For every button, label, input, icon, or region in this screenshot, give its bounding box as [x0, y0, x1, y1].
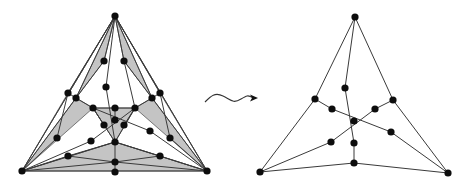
left-graph-edges: [22, 16, 207, 172]
graph-edge: [260, 142, 331, 172]
graph-vertex: [18, 167, 25, 174]
graph-vertex: [166, 134, 173, 141]
graph-vertex: [102, 83, 109, 90]
graph-edge: [355, 17, 393, 100]
graph-vertex: [111, 138, 118, 145]
graph-vertex: [72, 94, 79, 101]
graph-vertex: [156, 152, 163, 159]
graph-vertex: [53, 134, 60, 141]
graph-edge: [332, 109, 391, 132]
graph-vertex: [256, 168, 263, 175]
graph-vertex: [89, 104, 96, 111]
graph-vertex: [327, 138, 334, 145]
graph-vertex: [87, 137, 94, 144]
wavy-arrow-icon: [205, 94, 258, 102]
diagram-svg: [0, 0, 472, 186]
graph-vertex: [203, 167, 210, 174]
graph-vertex: [111, 168, 118, 175]
graph-vertex: [350, 139, 357, 146]
graph-edge: [391, 132, 448, 173]
graph-vertex: [350, 159, 357, 166]
graph-vertex: [341, 84, 348, 91]
graph-vertex: [311, 95, 318, 102]
graph-vertex: [111, 158, 118, 165]
graph-vertex: [111, 12, 118, 19]
graph-edge: [76, 61, 104, 98]
graph-vertex: [111, 116, 118, 123]
graph-vertex: [351, 13, 358, 20]
graph-vertex: [387, 128, 394, 135]
graph-edge: [115, 16, 152, 98]
right-graph-edges: [260, 17, 448, 173]
graph-vertex: [100, 57, 107, 64]
graph-vertex: [148, 94, 155, 101]
graph-vertex: [444, 169, 451, 176]
graph-vertex: [350, 117, 357, 124]
graph-vertex: [64, 152, 71, 159]
graph-vertex: [131, 104, 138, 111]
diagram-canvas: [0, 0, 472, 186]
wavy-arrow-shaft: [205, 94, 254, 102]
graph-vertex: [100, 121, 107, 128]
graph-vertex: [120, 121, 127, 128]
graph-vertex: [371, 105, 378, 112]
graph-edge: [115, 16, 160, 93]
graph-edge: [68, 16, 115, 93]
graph-vertex: [64, 89, 71, 96]
graph-vertex: [120, 57, 127, 64]
graph-vertex: [389, 96, 396, 103]
graph-vertex: [156, 89, 163, 96]
arrowhead-icon: [250, 95, 258, 102]
graph-vertex: [328, 105, 335, 112]
graph-vertex: [146, 127, 153, 134]
graph-edge: [393, 100, 448, 173]
graph-vertex: [111, 104, 118, 111]
graph-edge: [260, 163, 354, 172]
graph-edge: [354, 163, 448, 173]
graph-edge: [260, 99, 315, 172]
